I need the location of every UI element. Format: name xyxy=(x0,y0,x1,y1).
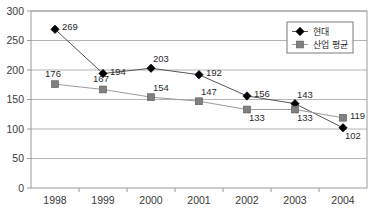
x-tick-label: 2001 xyxy=(187,194,211,206)
square-marker xyxy=(100,86,107,93)
y-tick-label: 50 xyxy=(12,152,24,164)
legend-label-0: 현대 xyxy=(313,27,329,37)
x-tick-label: 2002 xyxy=(235,194,259,206)
y-tick-label: 100 xyxy=(6,123,24,135)
data-label: 133 xyxy=(297,112,313,123)
y-tick-label: 300 xyxy=(6,5,24,17)
data-label: 119 xyxy=(350,110,365,121)
x-tick-label: 2003 xyxy=(283,194,307,206)
y-tick-label: 150 xyxy=(6,93,24,105)
data-label: 154 xyxy=(153,82,169,93)
line-chart-figure: 050100150200250300 199819992000200120022… xyxy=(0,0,375,215)
y-tick-label: 200 xyxy=(6,64,24,76)
x-tick-label: 2000 xyxy=(139,194,163,206)
data-label: 133 xyxy=(249,112,265,123)
x-tick-label: 1999 xyxy=(91,194,115,206)
data-label: 167 xyxy=(93,73,109,84)
data-label: 176 xyxy=(45,68,61,79)
data-label: 192 xyxy=(206,67,222,78)
square-marker xyxy=(52,81,59,88)
data-label: 143 xyxy=(297,89,313,100)
chart-legend[interactable]: 현대산업 평균 xyxy=(287,22,353,53)
y-axis: 050100150200250300 xyxy=(6,5,31,194)
x-tick-label: 2004 xyxy=(331,194,355,206)
data-label: 194 xyxy=(110,66,126,77)
x-tick-label: 1998 xyxy=(43,194,67,206)
data-label: 269 xyxy=(62,21,78,32)
data-label: 147 xyxy=(201,86,217,97)
data-label: 156 xyxy=(254,88,270,99)
y-tick-label: 0 xyxy=(18,182,24,194)
square-marker xyxy=(340,114,347,121)
chart-canvas: 050100150200250300 199819992000200120022… xyxy=(0,0,375,215)
data-label: 102 xyxy=(345,130,361,141)
square-marker xyxy=(297,41,304,48)
square-marker xyxy=(196,98,203,105)
square-marker xyxy=(148,94,155,101)
x-axis: 1998199920002001200220032004 xyxy=(43,188,355,206)
data-label: 203 xyxy=(153,53,169,64)
y-tick-label: 250 xyxy=(6,34,24,46)
legend-label-1: 산업 평균 xyxy=(313,40,348,50)
